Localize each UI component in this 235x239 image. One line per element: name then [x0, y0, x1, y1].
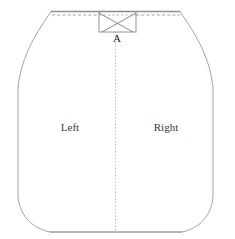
point-label-a: A: [113, 32, 121, 44]
garment-pattern-diagram: A Left Right: [0, 0, 235, 239]
panel-label-left: Left: [61, 121, 79, 133]
pattern-drawing-canvas: A Left Right: [0, 0, 235, 239]
panel-label-right: Right: [154, 121, 178, 133]
